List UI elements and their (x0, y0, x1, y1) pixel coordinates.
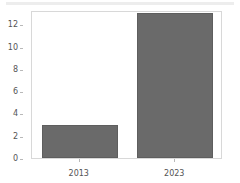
x-axis: 20132023 (0, 159, 240, 183)
y-tick-label: 2 (0, 133, 18, 141)
y-tick-mark (20, 70, 23, 71)
y-tick-label: 8 (0, 66, 18, 74)
y-tick-mark (20, 137, 23, 138)
bar-chart-figure: 024681012 20132023 (0, 0, 240, 183)
y-tick-label: 10 (0, 44, 18, 52)
x-tick-mark (174, 159, 175, 162)
x-tick-label: 2013 (69, 169, 89, 178)
x-tick-mark (79, 159, 80, 162)
y-tick-label: 6 (0, 88, 18, 96)
y-tick-mark (20, 48, 23, 49)
y-tick-label: 12 (0, 21, 18, 29)
page-top-band (6, 2, 234, 5)
plot-area (31, 11, 222, 159)
bar-2023 (137, 13, 213, 158)
y-tick-label: 4 (0, 110, 18, 118)
y-axis: 024681012 (0, 0, 31, 183)
y-tick-mark (20, 114, 23, 115)
bar-2013 (42, 125, 118, 158)
y-tick-mark (20, 25, 23, 26)
y-tick-mark (20, 92, 23, 93)
x-tick-label: 2023 (164, 169, 184, 178)
